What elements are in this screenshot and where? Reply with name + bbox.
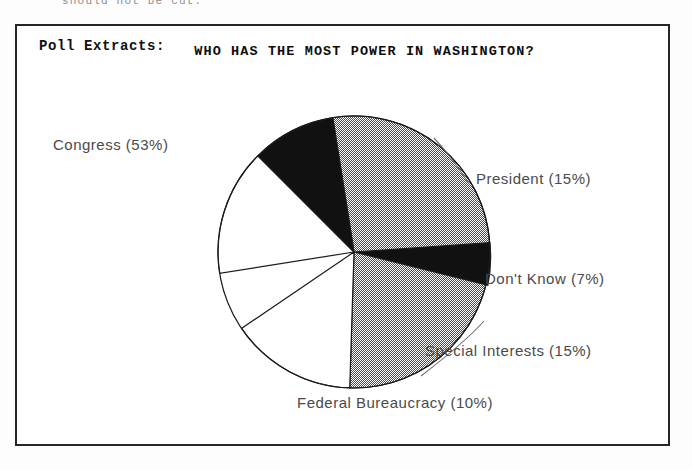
pie-label-special-interests: Special Interests (15%) — [425, 342, 592, 359]
pie-chart: Congress (53%) President (15%) Don't Kno… — [17, 26, 668, 444]
figure-frame: Poll Extracts: WHO HAS THE MOST POWER IN… — [15, 24, 670, 446]
pie-label-congress: Congress (53%) — [53, 136, 168, 153]
pie-label-dont-know: Don't Know (7%) — [485, 270, 605, 287]
pie-label-federal-bureaucracy: Federal Bureaucracy (10%) — [297, 394, 493, 411]
cropped-body-text: should not be cut. — [62, 0, 202, 4]
scanned-page: should not be cut. Poll Extracts: WHO HA… — [0, 0, 692, 470]
pie-slice-president[interactable] — [242, 252, 354, 388]
pie-label-president: President (15%) — [476, 170, 591, 187]
